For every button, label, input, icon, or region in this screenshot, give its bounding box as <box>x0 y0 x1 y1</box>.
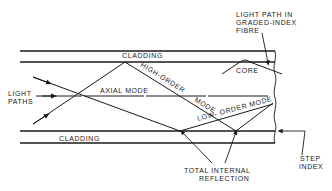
tir-leader-right <box>225 132 236 163</box>
cladding-top-label: CLADDING <box>122 52 163 59</box>
break-line <box>274 51 276 143</box>
fibre-modes-diagram: CLADDING CLADDING CORE LIGHT PATHS AXIAL… <box>0 0 332 191</box>
graded-index-leader <box>262 33 268 63</box>
graded-index-label-2: GRADED-INDEX <box>236 19 297 26</box>
step-index-leader <box>280 131 305 155</box>
graded-index-label-3: FIBRE <box>236 27 260 34</box>
graded-index-label-1: LIGHT PATH IN <box>236 11 293 18</box>
cladding-bottom-label: CLADDING <box>59 135 100 142</box>
step-index-label-1: STEP <box>300 155 321 162</box>
light-paths-label-2: PATHS <box>8 98 33 105</box>
low-order-input-arrow <box>33 77 49 83</box>
tir-label-2: REFLECTION <box>199 175 249 182</box>
core-label: CORE <box>236 67 259 74</box>
axial-mode-label: AXIAL MODE <box>100 87 149 94</box>
tir-label-1: TOTAL INTERNAL <box>184 167 251 174</box>
tir-leader-left <box>182 132 212 163</box>
high-order-input-arrow <box>33 115 47 124</box>
step-index-label-2: INDEX <box>299 163 323 170</box>
light-paths-label-1: LIGHT <box>8 90 32 97</box>
